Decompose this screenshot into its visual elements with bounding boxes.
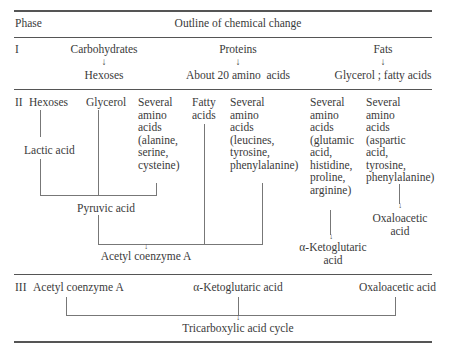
- arrow-down-icon: ↓: [144, 242, 148, 252]
- phase1-rule: [14, 89, 432, 90]
- phase3-label: III: [15, 281, 27, 294]
- connector-line: [395, 297, 396, 315]
- acetyl-coa-3: Acetyl coenzyme A: [33, 281, 124, 294]
- connector-line: [98, 244, 263, 245]
- bottom-rule: [14, 341, 432, 343]
- phase1-label: I: [15, 43, 19, 56]
- tricarboxylic-acid-cycle: Tricarboxylic acid cycle: [182, 322, 293, 335]
- glycerol: Glycerol: [86, 96, 126, 109]
- phase-column-header: Phase: [15, 17, 42, 30]
- connector-line: [40, 110, 41, 137]
- fatty-acids: Fatty acids: [192, 96, 216, 121]
- carbohydrates: Carbohydrates: [70, 43, 137, 56]
- amino-group-2: Several amino acids (leucines, tyrosine,…: [230, 96, 298, 171]
- connector-line: [98, 110, 99, 195]
- phase2-label: II: [15, 96, 23, 109]
- hexoses: Hexoses: [85, 69, 124, 82]
- header-rule: [14, 37, 432, 38]
- arrow-down-icon: ↓: [329, 232, 333, 242]
- amino-group-1: Several amino acids (alanine, serine, cy…: [138, 96, 180, 171]
- top-rule: [14, 10, 432, 12]
- amino-acids: About 20 amino acids: [186, 69, 290, 82]
- oxaloacetic-acid-3: Oxaloacetic acid: [359, 281, 436, 294]
- lactic-acid: Lactic acid: [24, 144, 75, 157]
- phase2-rule: [14, 274, 432, 275]
- proteins: Proteins: [219, 43, 257, 56]
- pyruvic-acid: Pyruvic acid: [77, 202, 135, 215]
- connector-line: [156, 183, 157, 195]
- ketoglutaric-acid-3: α-Ketoglutaric acid: [193, 281, 282, 294]
- arrow-down-icon: ↓: [398, 201, 402, 211]
- ketoglutaric-acid: α-Ketoglutaric acid: [299, 241, 366, 266]
- connector-line: [204, 124, 205, 245]
- fats: Fats: [373, 43, 392, 56]
- arrow-down-icon: ↓: [102, 57, 107, 67]
- glycerol-fatty-acids: Glycerol ; fatty acids: [335, 69, 432, 82]
- arrow-down-icon: ↓: [236, 57, 241, 67]
- connector-line: [40, 159, 41, 195]
- arrow-down-icon: ↓: [381, 57, 386, 67]
- amino-group-4: Several amino acids (aspartic acid, tyro…: [366, 96, 434, 184]
- connector-line: [262, 183, 263, 245]
- connector-line: [98, 215, 99, 245]
- oxaloacetic-acid: Oxaloacetic acid: [373, 212, 428, 237]
- amino-group-3: Several amino acids (glutamic acid, hist…: [310, 96, 354, 196]
- hexoses-2: Hexoses: [29, 96, 68, 109]
- connector-line: [66, 297, 67, 315]
- connector-line: [40, 195, 157, 196]
- connector-line: [66, 315, 396, 316]
- outline-column-header: Outline of chemical change: [175, 17, 302, 30]
